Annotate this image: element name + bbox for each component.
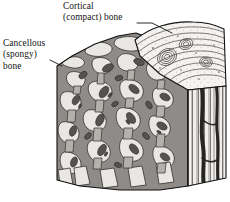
label-cancellous-line1: Cancellous (3, 38, 45, 49)
cortical-bone-right-face (188, 86, 226, 186)
label-cancellous-bone: Cancellous (spongy) bone (3, 38, 45, 72)
label-cortical-bone: Cortical (compact) bone (63, 1, 122, 24)
bone-cross-section-illustration (0, 0, 230, 202)
label-cortical-line2: (compact) bone (63, 12, 122, 23)
label-cancellous-line2: (spongy) (3, 49, 45, 60)
bone-structure-figure: Cortical (compact) bone Cancellous (spon… (0, 0, 230, 202)
label-cortical-line1: Cortical (63, 1, 122, 12)
leader-line-cancellous (50, 60, 62, 66)
label-cancellous-line3: bone (3, 61, 45, 72)
